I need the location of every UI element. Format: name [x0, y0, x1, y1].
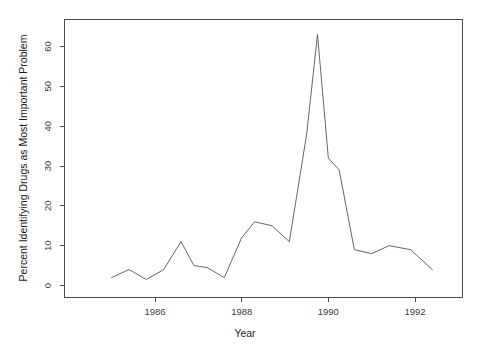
plot-frame [65, 20, 463, 298]
x-tick-label: 1988 [231, 306, 252, 317]
x-tick-label: 1990 [318, 306, 339, 317]
line-chart: 0 10 20 30 40 50 60 Percent Identifying … [0, 0, 484, 349]
chart-figure: 0 10 20 30 40 50 60 Percent Identifying … [0, 0, 484, 349]
y-axis-ticks [60, 47, 65, 286]
y-tick-label: 20 [42, 201, 53, 212]
x-axis-title: Year [234, 327, 256, 339]
y-axis-tick-labels: 0 10 20 30 40 50 60 [42, 41, 53, 288]
x-axis-tick-labels: 1986 1988 1990 1992 [144, 306, 425, 317]
x-tick-label: 1992 [404, 306, 425, 317]
y-axis-title: Percent Identifying Drugs as Most Import… [17, 34, 29, 281]
y-tick-label: 30 [42, 161, 53, 172]
y-tick-label: 10 [42, 240, 53, 251]
x-tick-label: 1986 [144, 306, 165, 317]
data-series-line [112, 35, 433, 280]
y-tick-label: 50 [42, 81, 53, 92]
y-tick-label: 60 [42, 41, 53, 52]
y-tick-label: 40 [42, 121, 53, 132]
y-tick-label: 0 [42, 283, 53, 288]
x-axis-ticks [155, 298, 415, 303]
